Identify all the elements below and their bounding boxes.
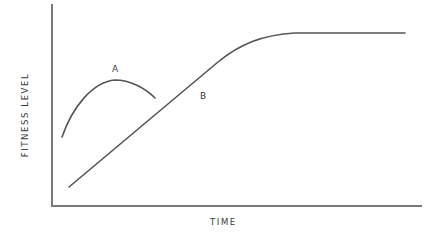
fitness-chart: A B TIME FITNESS LEVEL — [0, 0, 433, 236]
y-axis-label: FITNESS LEVEL — [20, 73, 30, 158]
curve-b — [69, 33, 405, 187]
curve-b-label: B — [200, 91, 206, 101]
curve-a-label: A — [112, 64, 118, 74]
chart-plot-area — [0, 0, 433, 236]
x-axis-label: TIME — [210, 217, 237, 227]
curve-a — [62, 80, 155, 137]
